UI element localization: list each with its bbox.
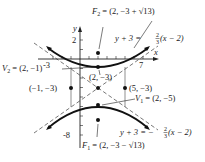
svg-text:3: 3 <box>164 133 167 139</box>
y-tick-2: 2 <box>72 35 76 45</box>
focus-f1-dot <box>96 118 100 122</box>
x-axis-arrow-icon <box>153 57 159 61</box>
y-tick-neg8: -8 <box>63 130 70 140</box>
y-axis-label: y <box>72 23 77 33</box>
svg-text:y + 3 = −: y + 3 = − <box>119 127 154 137</box>
svg-text:y + 3 =: y + 3 = <box>114 33 141 43</box>
svg-text:2: 2 <box>156 32 159 38</box>
hyperbola-diagram: y x 2 -8 -3 7 F2 = (2, −3 + √13) V2 = (2… <box>0 0 205 162</box>
upper-asymptote-equation: y + 3 = 2 3 (x − 2) <box>114 32 184 45</box>
vertex-v2-dot <box>96 65 100 69</box>
label-center: (2, −3) <box>89 72 112 82</box>
x-tick-neg3: -3 <box>43 60 50 70</box>
vertex-v1-dot <box>96 103 100 107</box>
right-point-dot <box>123 86 127 90</box>
svg-text:(x − 2): (x − 2) <box>168 127 192 137</box>
focus-f2-dot <box>96 51 100 55</box>
label-left-point: (−1, −3) <box>29 83 57 93</box>
svg-text:2: 2 <box>164 126 167 132</box>
x-tick-7: 7 <box>139 60 143 70</box>
x-axis-label: x <box>153 47 158 57</box>
center-dot <box>96 86 100 90</box>
label-f1: F1 = (2, −3 − √13) <box>81 140 145 151</box>
svg-text:3: 3 <box>156 39 159 45</box>
left-point-dot <box>69 86 73 90</box>
svg-text:(x − 2): (x − 2) <box>160 33 184 43</box>
y-axis-arrow-icon <box>78 26 82 32</box>
label-f2: F2 = (2, −3 + √13) <box>91 6 155 17</box>
lower-asymptote-equation: y + 3 = − 2 3 (x − 2) <box>119 126 192 139</box>
label-v1: V1 = (2, −5) <box>135 93 176 104</box>
label-v2: V2 = (2, −1) <box>2 63 43 74</box>
label-right-point: (5, −3) <box>129 83 152 93</box>
